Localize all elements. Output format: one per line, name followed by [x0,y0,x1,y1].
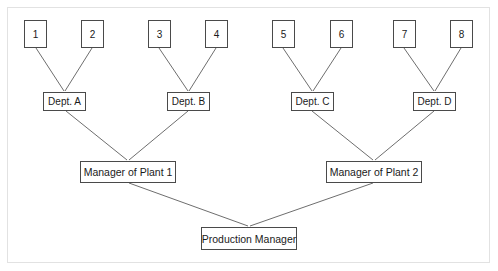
department-box-b-label: Dept. B [172,96,205,107]
manager-box-plant-1-label: Manager of Plant 1 [84,166,173,178]
leaf-box-8: 8 [450,20,473,48]
leaf-box-2-label: 2 [90,29,96,40]
connector-line [312,111,373,160]
connector-line [66,111,127,160]
department-box-b: Dept. B [167,92,210,111]
leaf-box-7: 7 [393,20,416,48]
leaf-box-5-label: 5 [281,29,287,40]
leaf-box-8-label: 8 [459,29,465,40]
department-box-c-label: Dept. C [296,96,330,107]
manager-box-plant-1: Manager of Plant 1 [80,161,176,183]
manager-box-plant-2: Manager of Plant 2 [326,161,422,183]
department-box-a-label: Dept. A [48,96,81,107]
connector-line [36,48,64,91]
leaf-box-1: 1 [24,20,47,48]
connector-line [159,48,188,91]
production-manager-box-label: Production Manager [202,233,297,245]
connector-line [129,183,248,226]
leaf-box-1-label: 1 [33,29,39,40]
leaf-box-7-label: 7 [402,29,408,40]
connector-line [189,48,216,91]
manager-box-plant-2-label: Manager of Plant 2 [330,166,419,178]
connector-line [129,111,188,160]
production-manager-box: Production Manager [201,227,297,250]
connector-line [404,48,434,91]
department-box-c: Dept. C [291,92,334,111]
connector-line [65,48,92,91]
leaf-box-3: 3 [148,20,171,48]
department-box-a: Dept. A [43,92,86,111]
leaf-box-4: 4 [205,20,228,48]
connector-line [250,183,373,226]
org-chart-diagram: 1 2 3 4 5 6 7 8 Dept. A Dept. B Dept. C … [0,0,498,271]
leaf-box-3-label: 3 [157,29,163,40]
leaf-box-5: 5 [272,20,295,48]
department-box-d: Dept. D [413,92,456,111]
leaf-box-2: 2 [81,20,104,48]
leaf-box-6: 6 [330,20,353,48]
connector-line [435,48,461,91]
connector-line [283,48,312,91]
department-box-d-label: Dept. D [418,96,452,107]
leaf-box-4-label: 4 [214,29,220,40]
connector-line [375,111,434,160]
connector-line [313,48,341,91]
leaf-box-6-label: 6 [339,29,345,40]
